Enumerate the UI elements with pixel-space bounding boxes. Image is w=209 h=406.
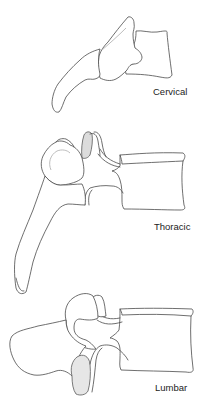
thoracic-vertebra: [15, 132, 185, 294]
vertebrae-figure: Cervical Thoracic Lumbar: [0, 0, 209, 406]
vertebrae-illustration: [0, 0, 209, 406]
thoracic-spinous-process: [15, 176, 86, 294]
lumbar-body: [110, 308, 193, 372]
thoracic-label: Thoracic: [154, 221, 190, 232]
lumbar-inferior-articular: [71, 355, 90, 395]
cervical-label: Cervical: [153, 86, 187, 97]
thoracic-pedicle-upper: [98, 149, 120, 167]
thoracic-superior-facet: [82, 132, 93, 159]
cervical-spinous-process: [52, 49, 100, 112]
cervical-vertebra: [52, 17, 172, 112]
lumbar-vertebra: [10, 278, 193, 395]
thoracic-pedicle-lower: [85, 186, 123, 205]
lumbar-label: Lumbar: [155, 382, 187, 393]
